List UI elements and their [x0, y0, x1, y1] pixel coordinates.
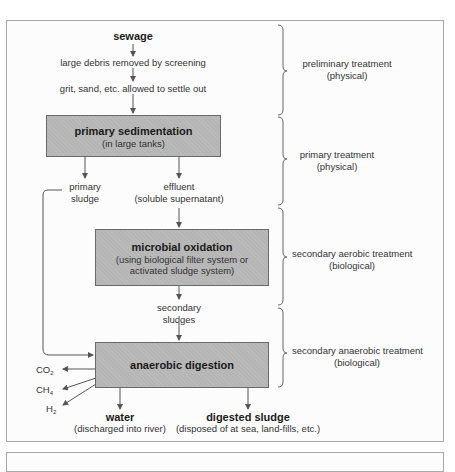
sewage-label: sewage — [83, 31, 183, 42]
primary-sedimentation-subtitle: (in large tanks) — [47, 138, 220, 149]
microbial-oxidation-box: microbial oxidation (using biological fi… — [95, 229, 269, 286]
anaerobic-digestion-title: anaerobic digestion — [96, 360, 268, 371]
water-output-title: water — [70, 412, 170, 423]
h2-label: H2 — [46, 403, 56, 418]
water-output-subtitle: (discharged into river) — [70, 423, 170, 434]
microbial-oxidation-title: microbial oxidation — [96, 242, 268, 253]
effluent-label: effluent (soluble supernatant) — [129, 181, 229, 205]
stage-braces — [278, 25, 287, 387]
stage-primary: primary treatment (physical) — [292, 149, 382, 173]
microbial-oxidation-subtitle-2: activated sludge system) — [96, 265, 268, 276]
primary-sedimentation-title: primary sedimentation — [47, 126, 220, 137]
stage-secondary-anaerobic: secondary anaerobic treatment (biologica… — [292, 345, 422, 369]
anaerobic-digestion-box: anaerobic digestion — [95, 342, 269, 388]
primary-sludge-label: primary sludge — [60, 181, 110, 205]
stage-secondary-aerobic: secondary aerobic treatment (biological) — [292, 248, 412, 272]
ch4-label: CH4 — [36, 384, 53, 399]
step-screening: large debris removed by screening — [33, 57, 233, 68]
co2-label: CO2 — [36, 364, 54, 379]
digested-sludge-title: digested sludge — [178, 412, 318, 423]
secondary-sludges-label: secondary sludges — [139, 302, 219, 326]
stage-preliminary: preliminary treatment (physical) — [292, 58, 402, 82]
primary-sedimentation-box: primary sedimentation (in large tanks) — [46, 115, 221, 157]
step-grit-settling: grit, sand, etc. allowed to settle out — [33, 83, 233, 94]
digested-sludge-subtitle: (disposed of at sea, land-fills, etc.) — [168, 423, 328, 434]
microbial-oxidation-subtitle-1: (using biological filter system or — [96, 254, 268, 265]
